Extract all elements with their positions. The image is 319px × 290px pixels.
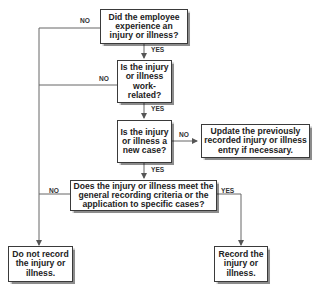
- label-q1-yes: YES: [151, 46, 164, 53]
- result-record: Record the injury or illness.: [214, 246, 268, 282]
- label-q2-yes: YES: [151, 105, 164, 112]
- label-q2-no: NO: [99, 75, 109, 82]
- label-q4-no: NO: [49, 187, 59, 194]
- question-experienced-injury: Did the employee experience an injury or…: [100, 9, 188, 44]
- result-do-not-record: Do not record the injury or illness.: [8, 246, 73, 282]
- label-q4-yes: YES: [221, 187, 234, 194]
- question-work-related: Is the injury or illness work-related?: [117, 60, 172, 103]
- action-update-entry: Update the previously recorded injury or…: [201, 124, 310, 158]
- question-new-case: Is the injury or illness a new case?: [117, 120, 172, 163]
- label-q3-yes: YES: [151, 166, 164, 173]
- label-q1-no: NO: [80, 17, 90, 24]
- question-recording-criteria: Does the injury or illness meet the gene…: [70, 180, 217, 211]
- label-q3-no: NO: [179, 131, 189, 138]
